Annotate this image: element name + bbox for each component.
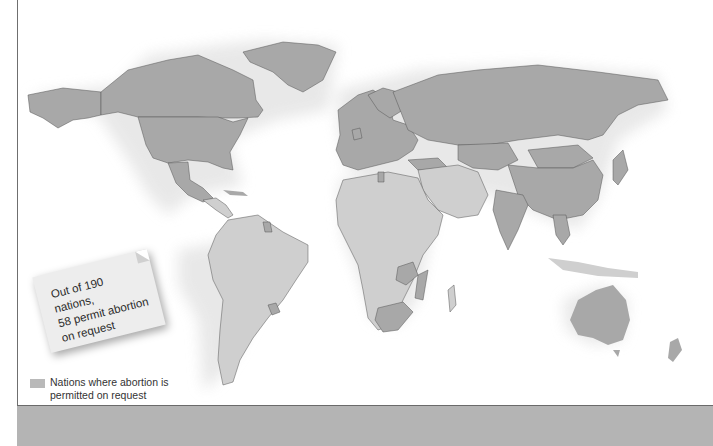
north-america — [28, 42, 336, 202]
alaska — [28, 88, 101, 128]
madagascar — [448, 285, 456, 312]
indonesia — [548, 258, 638, 278]
tasmania — [613, 350, 620, 357]
tunisia — [378, 172, 384, 182]
india — [493, 190, 528, 250]
world-map — [18, 0, 713, 405]
japan — [613, 150, 628, 185]
legend-swatch — [30, 379, 45, 388]
world-map-svg — [18, 0, 713, 405]
legend: Nations where abortion is permitted on r… — [30, 376, 200, 402]
legend-label: Nations where abortion is permitted on r… — [50, 376, 200, 402]
page-fold-icon — [135, 249, 150, 264]
oceania — [570, 285, 682, 362]
uk — [352, 128, 362, 140]
new-zealand — [668, 338, 682, 362]
south-america — [208, 215, 308, 385]
bottom-band — [17, 405, 713, 446]
central-america — [203, 198, 233, 218]
cuba — [223, 190, 248, 196]
